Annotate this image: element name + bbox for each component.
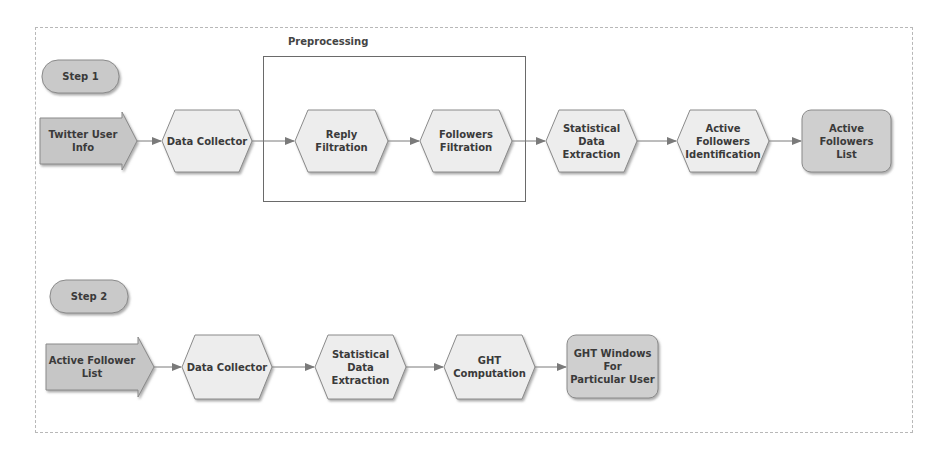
statistical-data-extraction-2-label: Statistical Data Extraction bbox=[318, 335, 403, 399]
statistical-data-extraction-label: Statistical Data Extraction bbox=[549, 110, 634, 172]
step2-label: Step 2 bbox=[50, 280, 128, 313]
followers-filtration-label: Followers Filtration bbox=[423, 110, 509, 172]
data-collector-label: Data Collector bbox=[165, 110, 249, 172]
data-collector-2-label: Data Collector bbox=[185, 335, 269, 399]
active-followers-list-label: Active Followers List bbox=[802, 110, 891, 172]
active-follower-list-label: Active Follower List bbox=[44, 344, 140, 390]
ght-computation-label: GHT Computation bbox=[447, 335, 532, 399]
step1-label: Step 1 bbox=[42, 60, 119, 93]
reply-filtration-label: Reply Filtration bbox=[298, 110, 385, 172]
twitter-user-info-label: Twitter User Info bbox=[40, 118, 126, 164]
ght-windows-label: GHT Windows For Particular User bbox=[567, 335, 658, 398]
active-followers-identification-label: Active Followers Identification bbox=[680, 110, 766, 172]
